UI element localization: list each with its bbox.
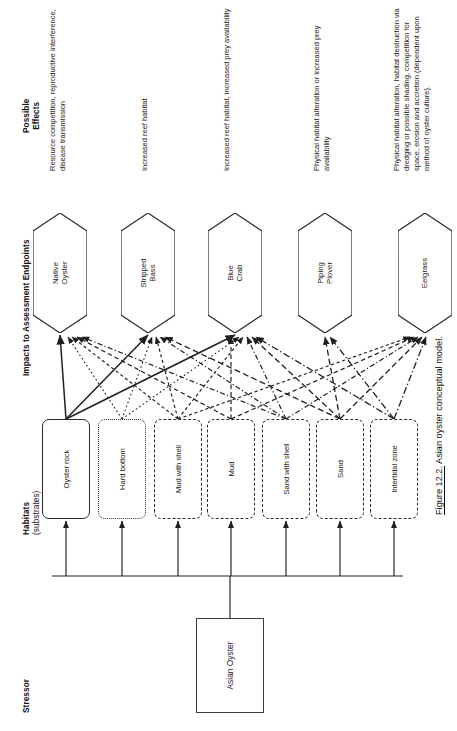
habitat-label-mud-with-shell: Mud with shell: [174, 445, 183, 493]
figure-page: Stressor Habitats (substrates) Impacts t…: [0, 0, 457, 731]
edge-hardbottom-blue-crab: [122, 337, 239, 419]
endpoint-hex-blue-crab[interactable]: Blue Crab: [208, 213, 262, 333]
figure-caption-text: Asian oyster conceptual model.: [434, 336, 444, 464]
habitat-label-hard-bottom: Hard bottom: [118, 448, 127, 490]
edge-sandwithshell-eelgrass: [286, 337, 418, 419]
figure-caption-number: Figure 12.2.: [434, 466, 445, 515]
figure-caption: Figure 12.2. Asian oyster conceptual mod…: [434, 336, 444, 515]
habitat-box-hard-bottom[interactable]: Hard bottom: [98, 419, 146, 519]
edge-intertidal-blue-crab: [256, 337, 394, 419]
effect-text-piping-plover: Physical habitat alteration or increased…: [312, 6, 332, 171]
stressor-box-label: Asian Oyster: [225, 642, 235, 690]
effect-text-eelgrass: Physical habitat alteration, habitat des…: [392, 3, 432, 171]
edge-sand-blue-crab: [252, 337, 340, 419]
habitat-box-mud-with-shell[interactable]: Mud with shell: [154, 419, 202, 519]
edge-mud-eelgrass: [231, 337, 414, 419]
hexagon-shape: [298, 213, 352, 333]
habitat-box-intertidal-zone[interactable]: Intertidal zone: [370, 419, 418, 519]
effect-text-stripped-bass: Increased reef habitat: [140, 6, 150, 171]
habitat-label-intertidal-zone: Intertidal zone: [390, 445, 399, 493]
edge-mudwithshell-stripped-bass: [156, 337, 178, 419]
endpoint-hex-piping-plover[interactable]: Piping Plover: [298, 213, 352, 333]
edge-oysterrock-blue-crab: [66, 335, 235, 419]
edge-mudwithshell-eelgrass: [178, 337, 410, 419]
habitat-box-sand[interactable]: Sand: [316, 419, 364, 519]
edge-oysterrock-native-oyster: [60, 335, 66, 419]
edge-oysterrock-stripped-bass: [66, 335, 148, 419]
edge-intertidal-piping-plover: [330, 337, 394, 419]
edge-mudwithshell-blue-crab: [178, 337, 243, 419]
hexagon-shape: [33, 213, 87, 333]
hexagon-shape: [208, 213, 262, 333]
stressor-box-asian-oyster[interactable]: Asian Oyster: [196, 618, 264, 713]
edge-mudwithshell-native-oyster: [72, 337, 178, 419]
effect-text-blue-crab: Increased reef habitat, increased prey a…: [222, 6, 232, 171]
edge-sandwithshell-native-oyster: [82, 337, 286, 419]
conceptual-model-figure: Stressor Habitats (substrates) Impacts t…: [0, 0, 457, 731]
endpoint-hex-native-oyster[interactable]: Native Oyster: [33, 213, 87, 333]
endpoint-hex-eelgrass[interactable]: Eelgrass: [398, 213, 452, 333]
hexagon-shape: [121, 213, 175, 333]
habitat-box-sand-with-shell[interactable]: Sand with shell: [262, 419, 310, 519]
edge-hardbottom-native-oyster: [68, 337, 122, 419]
habitat-label-mud: Mud: [227, 462, 236, 477]
habitat-box-oyster-rock[interactable]: Oyster rock: [42, 419, 90, 519]
endpoint-hex-stripped-bass[interactable]: Stripped Bass: [121, 213, 175, 333]
edge-sand-piping-plover: [325, 337, 340, 419]
effect-text-native-oyster: Resource competition, reproductive inter…: [48, 6, 68, 171]
hexagon-shape: [398, 213, 452, 333]
habitat-box-mud[interactable]: Mud: [207, 419, 255, 519]
habitat-label-oyster-rock: Oyster rock: [62, 450, 71, 489]
habitat-label-sand: Sand: [336, 460, 345, 478]
habitat-label-sand-with-shell: Sand with shell: [282, 443, 291, 494]
